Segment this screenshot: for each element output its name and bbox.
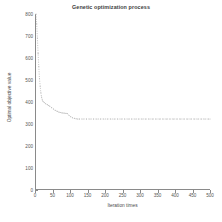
data-point [110,118,111,119]
data-point [60,112,61,113]
series-line [36,14,210,119]
data-point [49,106,50,107]
data-point [103,118,104,119]
data-point [35,13,36,14]
data-point [56,111,57,112]
x-axis-tick-label: 0 [34,193,37,198]
data-point [38,66,39,67]
data-point [41,97,42,98]
data-point [152,118,153,119]
data-point [74,118,75,119]
data-point [37,38,38,39]
data-point [77,118,78,119]
x-axis-tick-label: 300 [136,193,144,198]
x-axis-tick-label: 400 [171,193,179,198]
y-axis-tick-label: 600 [25,56,33,61]
data-point [135,118,136,119]
data-point [42,99,43,100]
data-point [44,102,45,103]
data-point [86,118,87,119]
data-point [82,118,83,119]
data-point [209,118,210,119]
data-point [96,118,97,119]
x-axis-tick-label: 150 [84,193,92,198]
data-point [149,118,150,119]
y-axis-tick-label: 700 [25,34,33,39]
chart-figure: Genetic optimization process 01002003004… [0,0,222,222]
data-point [62,112,63,113]
data-point [180,118,181,119]
x-axis-tick-label: 250 [119,193,127,198]
chart-title: Genetic optimization process [0,4,222,10]
data-point [176,118,177,119]
x-axis-tick-label: 50 [50,193,55,198]
data-point [169,118,170,119]
data-point [194,118,195,119]
data-point [197,118,198,119]
data-point [39,78,40,79]
data-point [89,118,90,119]
data-point [69,115,70,116]
data-point [128,118,129,119]
x-axis-tick-label: 200 [101,193,109,198]
data-point [162,118,163,119]
data-series-layer [36,14,210,189]
y-axis-tick-label: 800 [25,12,33,17]
data-point [159,118,160,119]
data-point [48,105,49,106]
x-axis-tick-labels: 050100150200250300350400450500 [35,193,210,201]
data-point [58,111,59,112]
data-point [145,118,146,119]
data-point [53,108,54,109]
x-axis-tick-label: 450 [189,193,197,198]
data-point [70,116,71,117]
data-point [142,118,143,119]
data-point [55,110,56,111]
data-point [36,23,37,24]
y-axis-tick-label: 400 [25,100,33,105]
data-point [131,118,132,119]
y-axis-tick-label: 0 [30,188,33,193]
y-axis-tick-label: 100 [25,166,33,171]
data-point [190,118,191,119]
data-point [183,118,184,119]
y-axis-tick-label: 200 [25,144,33,149]
y-axis-title: Optimal objective value [7,50,12,146]
data-point [40,92,41,93]
data-point [45,103,46,104]
data-point [208,118,209,119]
data-point [166,118,167,119]
data-point [173,118,174,119]
data-point [47,104,48,105]
data-point [204,118,205,119]
data-point [42,101,43,102]
data-point [67,113,68,114]
data-point [156,118,157,119]
data-point [201,118,202,119]
data-point [65,113,66,114]
data-point [124,118,125,119]
data-point [100,118,101,119]
data-point [75,118,76,119]
y-axis-tick-label: 300 [25,122,33,127]
x-axis-title: Iteration times [35,203,210,208]
data-point [121,118,122,119]
data-point [63,113,64,114]
data-point [138,118,139,119]
data-point [51,107,52,108]
data-point [93,118,94,119]
data-point [40,86,41,87]
y-axis-tick-labels: 0100200300400500600700800 [16,14,33,190]
x-axis-tick-label: 100 [66,193,74,198]
y-axis-tick-label: 500 [25,78,33,83]
plot-area [35,14,210,190]
data-point [117,118,118,119]
data-point [79,118,80,119]
data-point [107,118,108,119]
x-axis-tick-label: 500 [206,193,214,198]
data-point [38,53,39,54]
data-point [114,118,115,119]
data-point [72,117,73,118]
data-point [187,118,188,119]
x-axis-tick-label: 350 [154,193,162,198]
